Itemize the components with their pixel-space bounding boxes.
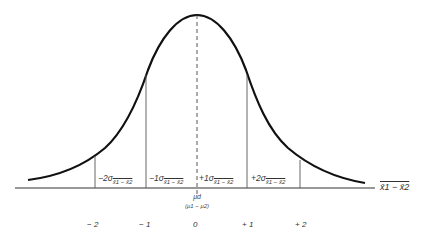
tick-plus-2: + 2 (295, 220, 306, 229)
tick-minus-1: − 1 (139, 220, 150, 229)
region-sigma-text: −2σ (98, 173, 113, 183)
tick-plus-1: + 1 (242, 220, 253, 229)
region-label-plus-2: +2σx̄1 − x̄2 (251, 173, 285, 185)
region-sub-text: x̄1 − x̄2 (214, 179, 234, 185)
tick-minus-2: − 2 (87, 220, 98, 229)
region-sigma-text: +1σ (199, 173, 214, 183)
region-sub-text: x̄1 − x̄2 (266, 179, 286, 185)
region-sub-text: x̄1 − x̄2 (113, 179, 133, 185)
normal-curve (28, 15, 365, 183)
x-axis-label: x̄1 − x̄2 (380, 182, 409, 192)
region-sub-text: x̄1 − x̄2 (164, 179, 184, 185)
region-label-minus-1: −1σx̄1 − x̄2 (149, 173, 183, 185)
tick-zero: 0 (193, 220, 197, 229)
region-sigma-text: −1σ (149, 173, 164, 183)
region-label-plus-1: +1σx̄1 − x̄2 (199, 173, 233, 185)
region-label-minus-2: −2σx̄1 − x̄2 (98, 173, 132, 185)
mu-difference-label: (μ1 − μ2) (176, 203, 218, 209)
mu-d-label: μd (186, 193, 208, 200)
region-sigma-text: +2σ (251, 173, 266, 183)
